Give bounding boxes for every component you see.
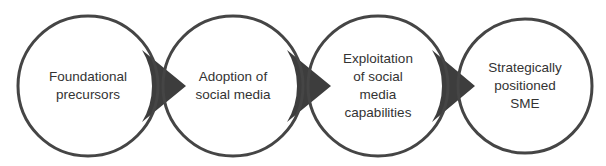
stage-label-exploitation-of-capabilities: Exploitation of social media capabilitie… <box>324 16 433 156</box>
stage-label-foundational-precursors: Foundational precursors <box>34 16 143 156</box>
stage-label-adoption-of-social-media: Adoption of social media <box>179 16 288 156</box>
stage-label-strategically-positioned-sme: Strategically positioned SME <box>473 19 577 153</box>
